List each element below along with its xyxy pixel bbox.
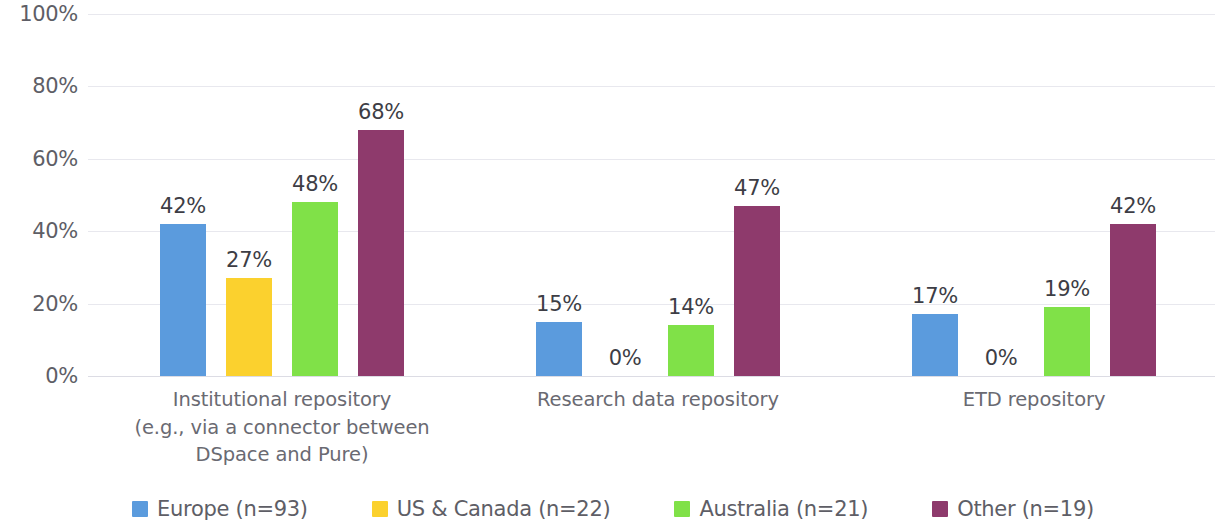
y-axis-labels: 0%20%40%60%80%100% xyxy=(0,0,78,390)
bar-value-label: 27% xyxy=(226,248,272,272)
x-axis-category-label-line: DSpace and Pure) xyxy=(134,441,429,469)
x-axis-category-label: ETD repository xyxy=(963,386,1106,414)
legend-label: Europe (n=93) xyxy=(157,497,308,521)
x-axis-category-label-line: Institutional repository xyxy=(134,386,429,414)
bar-value-label: 48% xyxy=(292,172,338,196)
legend: Europe (n=93)US & Canada (n=22)Australia… xyxy=(0,497,1226,521)
legend-item[interactable]: Australia (n=21) xyxy=(674,497,868,521)
y-axis-tick-label: 60% xyxy=(0,147,78,171)
bar[interactable] xyxy=(160,224,206,376)
legend-swatch-icon xyxy=(372,501,388,517)
gridline xyxy=(88,231,1215,232)
bar-value-label: 0% xyxy=(609,346,642,370)
bar-value-label: 14% xyxy=(668,295,714,319)
y-axis-tick-label: 40% xyxy=(0,219,78,243)
y-axis-tick-label: 0% xyxy=(0,364,78,388)
x-axis-category-label: Institutional repository(e.g., via a con… xyxy=(134,386,429,469)
bar[interactable] xyxy=(358,130,404,376)
bar[interactable] xyxy=(1044,307,1090,376)
legend-label: US & Canada (n=22) xyxy=(397,497,611,521)
legend-label: Other (n=19) xyxy=(957,497,1094,521)
x-axis-category-label: Research data repository xyxy=(537,386,779,414)
x-axis-category-label-line: (e.g., via a connector between xyxy=(134,414,429,442)
legend-item[interactable]: US & Canada (n=22) xyxy=(372,497,611,521)
legend-label: Australia (n=21) xyxy=(699,497,868,521)
gridline xyxy=(88,159,1215,160)
bar[interactable] xyxy=(912,314,958,376)
bar-value-label: 42% xyxy=(160,194,206,218)
legend-swatch-icon xyxy=(674,501,690,517)
bar[interactable] xyxy=(734,206,780,376)
gridline xyxy=(88,86,1215,87)
bar-value-label: 42% xyxy=(1110,194,1156,218)
y-axis-tick-label: 20% xyxy=(0,292,78,316)
legend-item[interactable]: Other (n=19) xyxy=(932,497,1094,521)
plot-area xyxy=(88,14,1215,376)
gridline xyxy=(88,14,1215,15)
bar[interactable] xyxy=(668,325,714,376)
bar-value-label: 19% xyxy=(1044,277,1090,301)
bar-value-label: 0% xyxy=(985,346,1018,370)
y-axis-tick-label: 100% xyxy=(0,2,78,26)
bar[interactable] xyxy=(536,322,582,376)
x-axis-category-label-line: Research data repository xyxy=(537,386,779,414)
bar-value-label: 15% xyxy=(536,292,582,316)
bar-chart: 0%20%40%60%80%100% 42%15%17%27%0%0%48%14… xyxy=(0,0,1226,532)
bar-value-label: 68% xyxy=(358,100,404,124)
bar[interactable] xyxy=(226,278,272,376)
bar[interactable] xyxy=(1110,224,1156,376)
gridline xyxy=(88,376,1215,377)
legend-swatch-icon xyxy=(132,501,148,517)
bar-value-label: 17% xyxy=(912,284,958,308)
bar[interactable] xyxy=(292,202,338,376)
y-axis-tick-label: 80% xyxy=(0,74,78,98)
x-axis-category-label-line: ETD repository xyxy=(963,386,1106,414)
bar-value-label: 47% xyxy=(734,176,780,200)
legend-item[interactable]: Europe (n=93) xyxy=(132,497,308,521)
legend-swatch-icon xyxy=(932,501,948,517)
